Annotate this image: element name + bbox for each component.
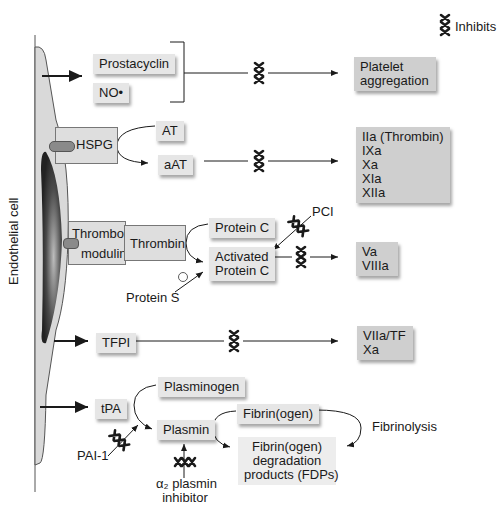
plasminogen-box: Plasminogen [158,377,245,397]
viia-tf-box: VIIa/TF Xa [357,326,413,360]
antithrombin-box: AT [156,121,184,141]
tfpi-box: TFPI [96,333,136,353]
pai1-label: PAI-1 [77,449,109,463]
plus-circle-icon [179,273,188,282]
tpa-box: tPA [95,399,127,419]
pci-label: PCI [312,205,334,219]
inhibit-icon-thrombin-factors [255,151,263,171]
legend-label: Inhibits [455,20,496,34]
protein-s-label: Protein S [126,291,179,305]
fdps-box: Fibrin(ogen) degradation products (FDPs) [238,437,336,485]
platelet-aggregation-box: Platelet aggregation [354,57,436,91]
fibrinogen-box: Fibrin(ogen) [237,404,319,424]
endothelial-anticoagulant-diagram: Inhibits Endothelial cell Prostacyclin N… [0,0,504,513]
inhibit-icon-alpha2 [175,458,195,466]
hspg-anchor-icon [49,141,75,152]
inhibit-icon-platelet [255,63,263,83]
plasmin-box: Plasmin [157,420,215,440]
hspg-receptor: HSPG [55,127,118,164]
inhibit-icon-viia-tf [230,331,238,351]
legend-inhibit-icon [441,15,449,35]
inhibit-icon-va-viiia [297,247,305,267]
protein-c-box: Protein C [209,218,275,238]
nitric-oxide-box: NO• [93,83,129,103]
coagulation-factors-box: IIa (Thrombin) IXa Xa XIa XIIa [356,127,450,203]
thrombin-bound-box: Thrombin [124,225,186,261]
fibrinolysis-label: Fibrinolysis [372,420,437,434]
activated-antithrombin-box: aAT [158,155,193,175]
va-viiia-box: Va VIIIa [356,242,398,276]
thrombomodulin-receptor: Thrombo- modulin [68,221,126,265]
inhibit-icon-pai1 [109,430,129,450]
endothelial-cell-label: Endothelial cell [6,198,21,285]
activated-protein-c-box: Activated Protein C [209,247,275,281]
prostacyclin-box: Prostacyclin [93,54,175,74]
alpha2-plasmin-inhibitor-label: α₂ plasmin inhibitor [156,477,214,505]
